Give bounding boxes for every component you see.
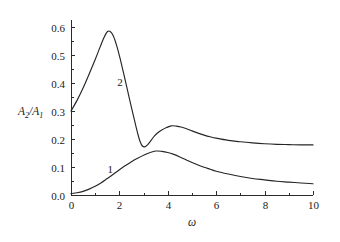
x-tick-label: 0 xyxy=(69,199,75,211)
y-tick-label: 0.3 xyxy=(51,106,65,118)
curve-annotations: 12 xyxy=(107,76,122,175)
axis-tick-labels: 02468100.00.10.20.30.40.50.6 xyxy=(51,22,319,212)
x-tick-label: 4 xyxy=(166,199,172,211)
x-axis-title: ω xyxy=(188,216,196,228)
y-tick-label: 0.0 xyxy=(51,190,65,202)
y-tick-label: 0.1 xyxy=(51,162,65,174)
y-tick-label: 0.5 xyxy=(51,50,65,62)
y-tick-label: 0.4 xyxy=(51,78,65,90)
y-axis-title-a1-sub: 1 xyxy=(39,111,43,120)
y-tick-label: 0.6 xyxy=(51,22,65,34)
line-chart: 02468100.00.10.20.30.40.50.6 12 ωA2/A1 xyxy=(0,0,340,242)
data-curve-2 xyxy=(71,31,313,147)
x-tick-label: 10 xyxy=(308,199,320,211)
y-tick-label: 0.2 xyxy=(51,134,65,146)
y-axis-title: A2/A1 xyxy=(17,105,43,120)
x-tick-label: 8 xyxy=(263,199,269,211)
curve-label-2: 2 xyxy=(117,76,123,88)
x-tick-label: 2 xyxy=(117,199,123,211)
x-tick-label: 6 xyxy=(214,199,220,211)
chart-figure: 02468100.00.10.20.30.40.50.6 12 ωA2/A1 xyxy=(0,0,340,242)
curve-label-1: 1 xyxy=(107,163,113,175)
